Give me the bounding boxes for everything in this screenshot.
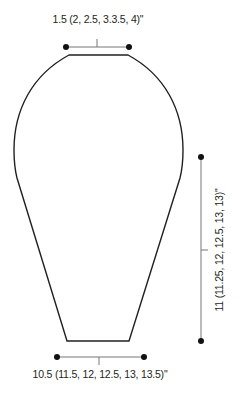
- side-bottom-endpoint: [198, 338, 204, 344]
- length-label: 11 (11.25, 12, 12.5, 13, 13)": [213, 188, 225, 311]
- bottom-right-endpoint: [141, 354, 147, 360]
- side-measurement-line: [198, 154, 208, 344]
- panel-outline: [14, 55, 183, 341]
- schematic-drawing: [0, 0, 240, 403]
- bottom-measurement-line: [54, 354, 147, 365]
- top-width-label: 1.5 (2, 2.5, 3.3.5, 4)": [0, 13, 196, 25]
- top-left-endpoint: [63, 44, 69, 50]
- side-top-endpoint: [198, 154, 204, 160]
- top-right-endpoint: [126, 44, 132, 50]
- bottom-left-endpoint: [54, 354, 60, 360]
- bottom-width-label: 10.5 (11.5, 12, 12.5, 13, 13.5)": [0, 368, 200, 380]
- top-measurement-line: [63, 39, 132, 50]
